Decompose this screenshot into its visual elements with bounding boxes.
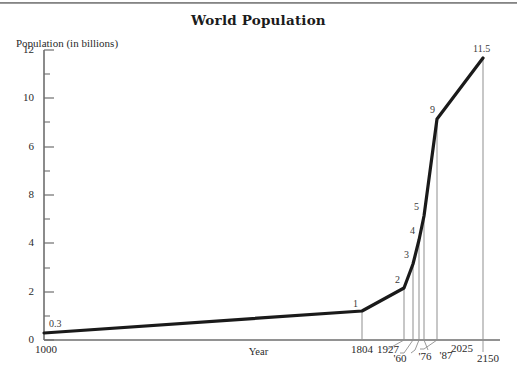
point-label-1: 1	[353, 298, 358, 309]
y-tick-8: 8	[10, 188, 34, 200]
point-label-5: 5	[414, 201, 419, 212]
chart-figure: World Population Population (in billions…	[0, 0, 517, 365]
point-label-9: 9	[430, 104, 435, 115]
point-label-2: 2	[395, 274, 400, 285]
data-point-droplines	[362, 58, 483, 340]
plot-area	[0, 0, 517, 365]
y-tick-2: 2	[10, 285, 34, 297]
point-label-4: 4	[410, 225, 415, 236]
y-tick-6: 6	[10, 140, 34, 152]
y-tick-12: 12	[10, 43, 34, 55]
y-tick-10: 10	[10, 91, 34, 103]
population-curve	[44, 58, 483, 333]
point-label-11.5: 11.5	[473, 43, 490, 54]
point-label-0.3: 0.3	[49, 318, 62, 329]
point-label-3: 3	[404, 249, 409, 260]
x-axis-title: Year	[0, 346, 517, 357]
y-axis-ticks	[44, 50, 54, 340]
y-tick-4: 4	[10, 236, 34, 248]
